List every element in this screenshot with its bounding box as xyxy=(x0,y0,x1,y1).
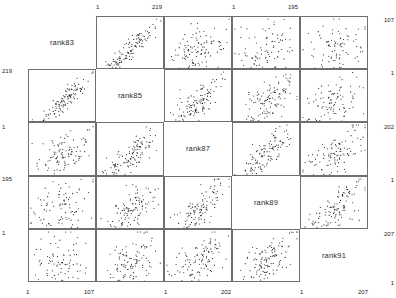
scatter-panel-rank91-vs-rank83[interactable] xyxy=(28,229,96,282)
tick-bottom-col0-max: 107 xyxy=(84,289,94,295)
tick-right-row2-min: 1 xyxy=(391,177,394,183)
tick-right-row4-max: 207 xyxy=(384,231,394,237)
tick-right-row0-max: 107 xyxy=(384,17,394,23)
scatter-points xyxy=(301,123,367,175)
scatter-panel-rank91-vs-rank89[interactable] xyxy=(232,229,300,282)
scatter-panel-rank89-vs-rank83[interactable] xyxy=(28,176,96,229)
scatter-panel-rank83-vs-rank85[interactable] xyxy=(96,16,164,69)
tick-bottom-col4-max: 207 xyxy=(358,289,368,295)
scatter-panel-rank83-vs-rank89[interactable] xyxy=(232,16,300,69)
scatter-points xyxy=(165,70,231,122)
scatter-panel-rank87-vs-rank89[interactable] xyxy=(232,122,300,175)
scatter-points xyxy=(29,123,95,175)
scatter-panel-rank87-vs-rank83[interactable] xyxy=(28,122,96,175)
tick-left-row3-min: 1 xyxy=(2,230,5,236)
tick-top-col3-max: 195 xyxy=(288,4,298,10)
scatter-panel-rank89-vs-rank91[interactable] xyxy=(300,176,368,229)
matrix-grid: rank83rank85rank87rank89rank91 xyxy=(28,16,368,282)
scatter-panel-rank83-vs-rank87[interactable] xyxy=(164,16,232,69)
diagonal-cell-rank91: rank91 xyxy=(300,229,368,282)
scatter-panel-rank89-vs-rank85[interactable] xyxy=(96,176,164,229)
diagonal-cell-rank89: rank89 xyxy=(232,176,300,229)
scatter-points xyxy=(165,177,231,229)
scatter-points xyxy=(301,17,367,69)
scatter-points xyxy=(97,123,163,175)
tick-bottom-col2-max: 202 xyxy=(221,289,231,295)
scatter-panel-rank87-vs-rank91[interactable] xyxy=(300,122,368,175)
tick-bottom-col0-min: 1 xyxy=(26,289,29,295)
scatter-points xyxy=(301,177,367,229)
tick-right-row4-min: 1 xyxy=(391,280,394,286)
tick-right-row2-max: 202 xyxy=(384,124,394,130)
scatter-points xyxy=(233,230,299,282)
variable-label: rank87 xyxy=(186,144,210,153)
scatter-points xyxy=(233,123,299,175)
scatter-panel-rank85-vs-rank87[interactable] xyxy=(164,69,232,122)
scatter-points xyxy=(29,230,95,282)
variable-label: rank89 xyxy=(254,198,278,207)
tick-right-row0-min: 1 xyxy=(391,70,394,76)
diagonal-cell-rank85: rank85 xyxy=(96,69,164,122)
scatter-panel-rank85-vs-rank91[interactable] xyxy=(300,69,368,122)
scatter-points xyxy=(97,177,163,229)
scatter-points xyxy=(165,230,231,282)
scatter-panel-rank85-vs-rank89[interactable] xyxy=(232,69,300,122)
diagonal-cell-rank83: rank83 xyxy=(28,16,96,69)
scatter-panel-rank91-vs-rank85[interactable] xyxy=(96,229,164,282)
scatter-panel-rank91-vs-rank87[interactable] xyxy=(164,229,232,282)
scatter-panel-rank89-vs-rank87[interactable] xyxy=(164,176,232,229)
scatter-points xyxy=(165,17,231,69)
tick-top-col1-min: 1 xyxy=(96,4,99,10)
scatterplot-matrix: 1 219 1 195 1 107 1 202 1 207 219 1 195 … xyxy=(0,0,396,298)
scatter-points xyxy=(97,230,163,282)
tick-top-col1-max: 219 xyxy=(152,4,162,10)
tick-bottom-col4-min: 1 xyxy=(300,289,303,295)
scatter-panel-rank83-vs-rank91[interactable] xyxy=(300,16,368,69)
tick-left-row3-max: 195 xyxy=(2,176,12,182)
scatter-points xyxy=(233,17,299,69)
scatter-points xyxy=(233,70,299,122)
variable-label: rank85 xyxy=(118,91,142,100)
variable-label: rank83 xyxy=(50,38,74,47)
diagonal-cell-rank87: rank87 xyxy=(164,122,232,175)
variable-label: rank91 xyxy=(322,251,346,260)
tick-bottom-col2-min: 1 xyxy=(164,289,167,295)
scatter-points xyxy=(29,177,95,229)
tick-left-row1-min: 1 xyxy=(2,124,5,130)
scatter-panel-rank87-vs-rank85[interactable] xyxy=(96,122,164,175)
scatter-points xyxy=(97,17,163,69)
tick-top-col3-min: 1 xyxy=(232,4,235,10)
tick-left-row1-max: 219 xyxy=(2,68,12,74)
scatter-points xyxy=(29,70,95,122)
scatter-panel-rank85-vs-rank83[interactable] xyxy=(28,69,96,122)
scatter-points xyxy=(301,70,367,122)
